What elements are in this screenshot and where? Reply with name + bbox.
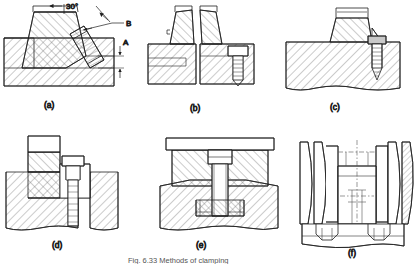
panel-c-caption: (c)	[330, 102, 340, 112]
panel-d-caption: (d)	[52, 240, 63, 250]
technical-figure: 30° B A (a)	[0, 0, 418, 264]
panel-c: (c)	[286, 8, 400, 112]
figure-canvas: 30° B A (a)	[0, 0, 418, 264]
panel-f: (f)	[300, 140, 413, 258]
wheel-left	[300, 142, 338, 224]
wheel-right	[376, 142, 413, 224]
panel-b: (b)	[148, 6, 254, 113]
panel-f-caption: (f)	[348, 248, 356, 258]
panel-e: (e)	[160, 138, 278, 250]
panel-b-caption: (b)	[190, 103, 201, 113]
panel-d: (d)	[6, 136, 118, 250]
panel-a-caption: (a)	[44, 100, 55, 110]
figure-caption: Fig. 6.33 Methods of clamping	[128, 256, 228, 264]
dimension-a-label: A	[123, 38, 129, 47]
panel-a: 30° B A (a)	[4, 2, 131, 110]
angle-label: 30°	[66, 2, 78, 11]
leader-b-label: B	[126, 19, 131, 28]
leader-b	[83, 23, 124, 30]
panel-e-caption: (e)	[196, 240, 207, 250]
